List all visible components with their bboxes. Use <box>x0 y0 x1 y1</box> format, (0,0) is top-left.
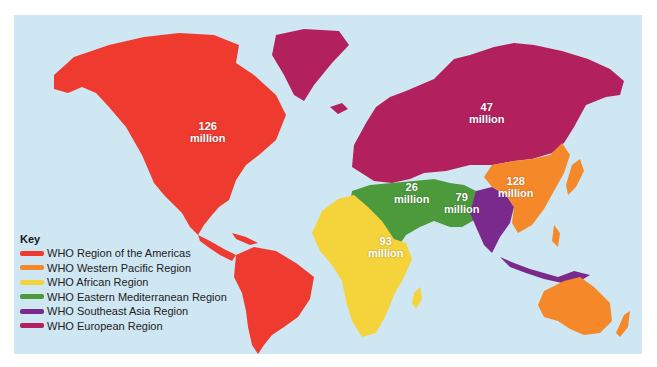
value-western-pacific: 128 <box>498 175 533 187</box>
label-southeast-asia: 79 million <box>444 191 479 215</box>
legend-label-western-pacific: WHO Western Pacific Region <box>47 262 191 274</box>
legend-label-southeast-asia: WHO Southeast Asia Region <box>47 305 188 317</box>
region-western-pacific-japan <box>566 159 584 195</box>
value-americas: 126 <box>190 120 225 132</box>
value-eastern-mediterranean: 26 <box>394 181 429 193</box>
unit-eastern-mediterranean: million <box>394 193 429 205</box>
label-americas: 126 million <box>190 120 225 144</box>
legend-item-western-pacific: WHO Western Pacific Region <box>20 261 227 276</box>
unit-africa: million <box>368 247 403 259</box>
legend-item-southeast-asia: WHO Southeast Asia Region <box>20 304 227 319</box>
world-map-panel: 126 million 47 million 128 million 26 mi… <box>14 15 642 354</box>
legend-swatch-europe <box>20 323 44 328</box>
legend-item-eastern-mediterranean: WHO Eastern Mediterranean Region <box>20 290 227 305</box>
legend-label-europe: WHO European Region <box>47 320 163 332</box>
legend-swatch-africa <box>20 280 44 285</box>
value-southeast-asia: 79 <box>444 191 479 203</box>
legend-label-americas: WHO Region of the Americas <box>47 247 191 259</box>
region-africa-madagascar <box>412 287 422 309</box>
label-europe: 47 million <box>469 101 504 125</box>
region-western-pacific-australia <box>538 277 612 335</box>
unit-americas: million <box>190 132 225 144</box>
legend-item-europe: WHO European Region <box>20 319 227 334</box>
unit-europe: million <box>469 113 504 125</box>
legend-item-americas: WHO Region of the Americas <box>20 246 227 261</box>
value-africa: 93 <box>368 235 403 247</box>
legend-swatch-southeast-asia <box>20 309 44 314</box>
region-americas-north <box>54 33 286 235</box>
map-legend: Key WHO Region of the Americas WHO Weste… <box>20 233 227 333</box>
region-western-pacific-philippines <box>552 225 560 247</box>
region-europe-iceland <box>330 103 348 114</box>
region-americas-south <box>234 247 314 354</box>
legend-swatch-western-pacific <box>20 265 44 270</box>
legend-label-africa: WHO African Region <box>47 276 148 288</box>
label-eastern-mediterranean: 26 million <box>394 181 429 205</box>
region-western-pacific-newzealand <box>616 311 630 337</box>
legend-item-africa: WHO African Region <box>20 275 227 290</box>
unit-western-pacific: million <box>498 187 533 199</box>
legend-swatch-americas <box>20 251 44 256</box>
label-western-pacific: 128 million <box>498 175 533 199</box>
unit-southeast-asia: million <box>444 203 479 215</box>
region-americas-caribbean <box>232 233 258 245</box>
region-europe-greenland <box>272 29 349 101</box>
legend-label-eastern-mediterranean: WHO Eastern Mediterranean Region <box>47 291 227 303</box>
label-africa: 93 million <box>368 235 403 259</box>
legend-title: Key <box>20 233 227 245</box>
value-europe: 47 <box>469 101 504 113</box>
legend-swatch-eastern-mediterranean <box>20 294 44 299</box>
